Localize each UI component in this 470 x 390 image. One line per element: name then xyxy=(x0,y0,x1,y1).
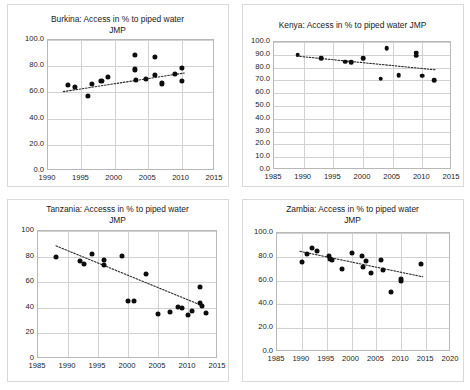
x-axis-tick-label: 2005 xyxy=(142,362,172,370)
plot-area-burkina xyxy=(47,39,214,170)
x-axis-tick-label: 1985 xyxy=(258,173,288,181)
data-point xyxy=(168,310,173,315)
y-axis-tick-label: 80.0 xyxy=(0,61,44,69)
x-axis-tick-label: 2010 xyxy=(166,174,196,182)
y-axis-tick-label: 40 xyxy=(0,303,34,311)
y-axis-tick-label: 40.0 xyxy=(235,114,270,122)
data-point xyxy=(359,253,364,258)
data-point xyxy=(144,271,149,276)
data-point xyxy=(299,259,304,264)
y-axis-tick-label: 100.0 xyxy=(235,37,270,45)
panel-kenya: Kenya: Access in % to piped water JMP 0.… xyxy=(235,0,470,195)
x-axis-tick-label: 2000 xyxy=(99,174,129,182)
panel-tanzania: Tanzania: Accesss in % to piped water JM… xyxy=(0,195,235,390)
x-axis-tick-label: 1995 xyxy=(82,362,112,370)
y-axis-tick-label: 40.0 xyxy=(235,299,273,307)
x-axis-tick-label: 2010 xyxy=(406,173,436,181)
chart-title-tanzania: Tanzania: Accesss in % to piped water JM… xyxy=(0,204,235,226)
data-point xyxy=(381,268,386,273)
x-axis-tick-label: 2015 xyxy=(199,174,229,182)
y-axis-tick-label: 60 xyxy=(0,277,34,285)
x-axis-tick-label: 1990 xyxy=(52,362,82,370)
x-axis-tick-label: 2010 xyxy=(172,362,202,370)
chart-grid: Burkina: Access in % to piped water JMP … xyxy=(0,0,470,390)
x-axis-tick-label: 2015 xyxy=(202,362,232,370)
chart-title-burkina: Burkina: Access in % to piped water JMP xyxy=(0,14,235,36)
data-point xyxy=(361,56,366,61)
data-point xyxy=(414,54,419,59)
y-axis-tick-label: 30.0 xyxy=(235,127,270,135)
y-axis-tick-label: 20.0 xyxy=(235,323,273,331)
y-axis-tick-label: 20 xyxy=(0,328,34,336)
data-point xyxy=(120,254,125,259)
data-point xyxy=(379,258,384,263)
y-axis-tick-label: 80.0 xyxy=(235,63,270,71)
data-point xyxy=(360,264,365,269)
data-point xyxy=(189,309,194,314)
data-point xyxy=(295,52,300,57)
x-axis-tick-label: 2015 xyxy=(436,173,466,181)
data-point xyxy=(379,77,384,82)
chart-title-kenya: Kenya: Access in % to piped water JMP xyxy=(235,20,470,31)
data-point xyxy=(54,255,59,260)
data-point xyxy=(132,299,137,304)
data-point xyxy=(432,78,437,83)
data-point xyxy=(198,285,203,290)
panel-zambia: Zambia: Access in % to piped water JMP 0… xyxy=(235,195,470,390)
plot-area-tanzania xyxy=(37,230,217,358)
data-point xyxy=(90,251,95,256)
data-point xyxy=(199,304,204,309)
x-axis-tick-label: 1995 xyxy=(65,174,95,182)
y-axis-tick-label: 60.0 xyxy=(235,276,273,284)
y-axis-tick-label: 60.0 xyxy=(235,88,270,96)
data-point xyxy=(339,266,344,271)
y-axis-tick-label: 80.0 xyxy=(235,252,273,260)
data-point xyxy=(419,262,424,267)
y-axis-tick-label: 50.0 xyxy=(235,101,270,109)
x-axis-tick-label: 2005 xyxy=(377,173,407,181)
y-axis-tick-label: 100.0 xyxy=(235,228,273,236)
data-point xyxy=(420,73,425,78)
trendline xyxy=(277,233,451,352)
y-axis-tick-label: 90.0 xyxy=(235,50,270,58)
x-axis-tick-label: 2020 xyxy=(435,355,465,363)
y-axis-tick-label: 40.0 xyxy=(0,114,44,122)
plot-area-kenya xyxy=(273,41,451,169)
data-point xyxy=(102,262,107,267)
trendline xyxy=(48,40,215,171)
x-axis-tick-label: 1990 xyxy=(288,173,318,181)
data-point xyxy=(329,257,334,262)
x-axis-tick-label: 2000 xyxy=(347,173,377,181)
y-axis-tick-label: 20.0 xyxy=(0,140,44,148)
y-axis-tick-label: 20.0 xyxy=(235,139,270,147)
data-point xyxy=(349,250,354,255)
chart-title-zambia: Zambia: Access in % to piped water JMP xyxy=(235,204,470,226)
data-point xyxy=(343,59,348,64)
x-axis-tick-label: 2005 xyxy=(132,174,162,182)
y-axis-tick-label: 0.0 xyxy=(0,166,44,174)
data-point xyxy=(126,298,131,303)
data-point xyxy=(156,312,161,317)
x-axis-tick-label: 2000 xyxy=(112,362,142,370)
y-axis-tick-label: 10.0 xyxy=(235,152,270,160)
y-axis-tick-label: 60.0 xyxy=(0,87,44,95)
x-axis-tick-label: 1990 xyxy=(32,174,62,182)
data-point xyxy=(304,252,309,257)
data-point xyxy=(396,73,401,78)
data-point xyxy=(364,258,369,263)
data-point xyxy=(389,289,394,294)
data-point xyxy=(314,248,319,253)
y-axis-tick-label: 70.0 xyxy=(235,75,270,83)
panel-burkina: Burkina: Access in % to piped water JMP … xyxy=(0,0,235,195)
data-point xyxy=(369,271,374,276)
plot-area-zambia xyxy=(276,232,450,351)
trendline xyxy=(38,231,218,359)
trendline xyxy=(274,42,452,170)
data-point xyxy=(204,310,209,315)
y-axis-tick-label: 100 xyxy=(0,226,34,234)
data-point xyxy=(349,60,354,65)
y-axis-tick-label: 100.0 xyxy=(0,35,44,43)
data-point xyxy=(180,306,185,311)
y-axis-tick-label: 80 xyxy=(0,252,34,260)
data-point xyxy=(319,56,324,61)
